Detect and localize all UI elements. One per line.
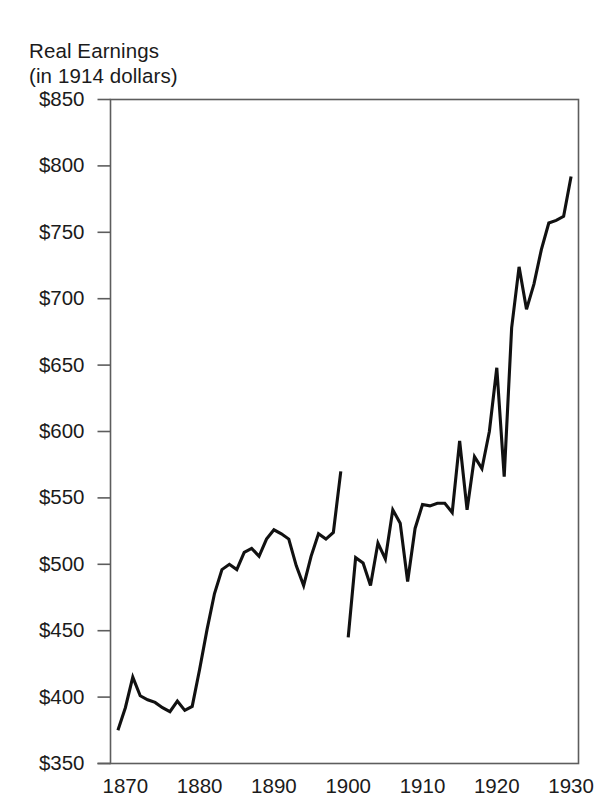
y-axis-tick-label: $600 bbox=[39, 419, 85, 442]
y-axis-tick-marks bbox=[98, 100, 111, 764]
x-axis-tick-labels: 1870188018901900191019201930 bbox=[103, 774, 594, 797]
y-axis-tick-label: $450 bbox=[39, 618, 85, 641]
y-axis-tick-label: $500 bbox=[39, 552, 85, 575]
chart-figure: Real Earnings(in 1914 dollars) $850$800$… bbox=[0, 0, 604, 802]
x-axis-tick-label: 1910 bbox=[400, 774, 446, 797]
line-chart-plot: $850$800$750$700$650$600$550$500$450$400… bbox=[0, 0, 604, 802]
x-axis-tick-label: 1890 bbox=[251, 774, 297, 797]
x-axis-tick-label: 1920 bbox=[474, 774, 520, 797]
plot-frame-border bbox=[111, 100, 579, 764]
y-axis-tick-label: $350 bbox=[39, 751, 85, 774]
y-axis-tick-label: $650 bbox=[39, 353, 85, 376]
y-axis-tick-label: $800 bbox=[39, 153, 85, 176]
y-axis-tick-label: $850 bbox=[39, 87, 85, 110]
data-series-line-2 bbox=[348, 177, 571, 638]
data-series-group bbox=[118, 177, 571, 731]
y-axis-tick-label: $550 bbox=[39, 485, 85, 508]
y-axis-tick-label: $700 bbox=[39, 286, 85, 309]
x-axis-tick-label: 1870 bbox=[103, 774, 149, 797]
data-series-line-1 bbox=[118, 471, 341, 730]
y-axis-tick-labels: $850$800$750$700$650$600$550$500$450$400… bbox=[39, 87, 85, 774]
y-axis-tick-label: $750 bbox=[39, 220, 85, 243]
x-axis-tick-label: 1930 bbox=[548, 774, 594, 797]
x-axis-tick-label: 1900 bbox=[325, 774, 371, 797]
y-axis-tick-label: $400 bbox=[39, 685, 85, 708]
x-axis-tick-label: 1880 bbox=[177, 774, 223, 797]
